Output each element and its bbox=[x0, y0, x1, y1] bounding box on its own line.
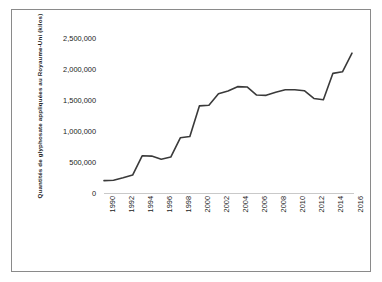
x-axis-line bbox=[104, 193, 354, 194]
x-axis-tick-label: 2008 bbox=[279, 196, 288, 212]
x-axis-tick-label: 2014 bbox=[336, 196, 345, 212]
plot-area bbox=[104, 38, 352, 193]
y-axis-tick-label: 0 bbox=[92, 189, 96, 198]
x-axis-tick-label: 2012 bbox=[317, 196, 326, 212]
y-axis-tick-label: 2,500,000 bbox=[63, 34, 96, 43]
y-axis-tick-label: 1,500,000 bbox=[63, 96, 96, 105]
x-axis-tick-label: 1990 bbox=[108, 196, 117, 212]
x-axis-tick-label: 2010 bbox=[298, 196, 307, 212]
x-axis-tick-label: 2002 bbox=[222, 196, 231, 212]
x-axis-tick-label: 2000 bbox=[203, 196, 212, 212]
y-axis-tick-labels: 0500,0001,000,0001,500,0002,000,0002,500… bbox=[22, 38, 100, 193]
x-axis-tick-labels: 1990199219941996199820002002200420062008… bbox=[104, 196, 354, 266]
x-axis-tick-label: 2004 bbox=[241, 196, 250, 212]
x-axis-tick-label: 1996 bbox=[165, 196, 174, 212]
x-axis-tick-label: 1994 bbox=[146, 196, 155, 212]
chart-figure: Quantités de glyphosate appliquées au Ro… bbox=[11, 9, 371, 272]
y-axis-tick-label: 1,000,000 bbox=[63, 127, 96, 136]
x-axis-tick-label: 1998 bbox=[184, 196, 193, 212]
y-axis-tick-label: 2,000,000 bbox=[63, 65, 96, 74]
series-line-chart bbox=[104, 38, 352, 193]
x-axis-tick-label: 1992 bbox=[127, 196, 136, 212]
x-axis-tick-label: 2016 bbox=[356, 196, 365, 212]
series-line-path bbox=[104, 53, 352, 180]
y-axis-tick-label: 500,000 bbox=[69, 158, 96, 167]
x-axis-tick-label: 2006 bbox=[260, 196, 269, 212]
